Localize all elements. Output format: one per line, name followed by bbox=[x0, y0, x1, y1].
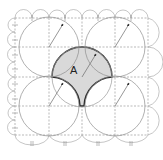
region-label-a: A bbox=[70, 64, 78, 76]
geometry-diagram: A bbox=[0, 0, 163, 160]
arrow-icon bbox=[49, 83, 63, 106]
arrow-icon bbox=[49, 24, 63, 47]
arrow-icon bbox=[115, 24, 129, 47]
arrow-icon bbox=[115, 83, 129, 106]
